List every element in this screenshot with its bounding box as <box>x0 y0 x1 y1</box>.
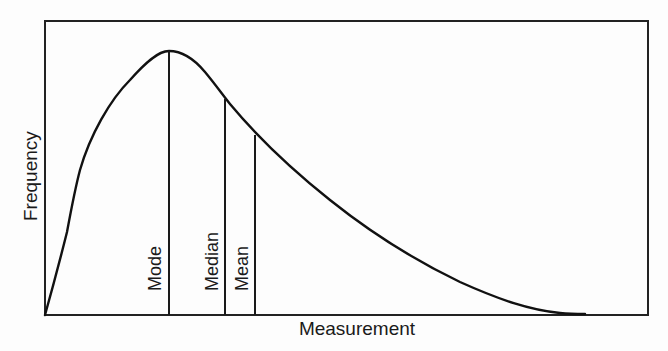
mean-label: Mean <box>232 246 252 291</box>
plot-frame <box>45 21 648 315</box>
y-axis-label: Frequency <box>20 131 41 221</box>
mode-label: Mode <box>145 246 165 291</box>
median-label: Median <box>202 232 222 291</box>
x-axis-label: Measurement <box>299 318 416 339</box>
distribution-curve <box>45 51 585 315</box>
skewed-distribution-diagram: Mode Median Mean Frequency Measurement <box>0 0 668 351</box>
